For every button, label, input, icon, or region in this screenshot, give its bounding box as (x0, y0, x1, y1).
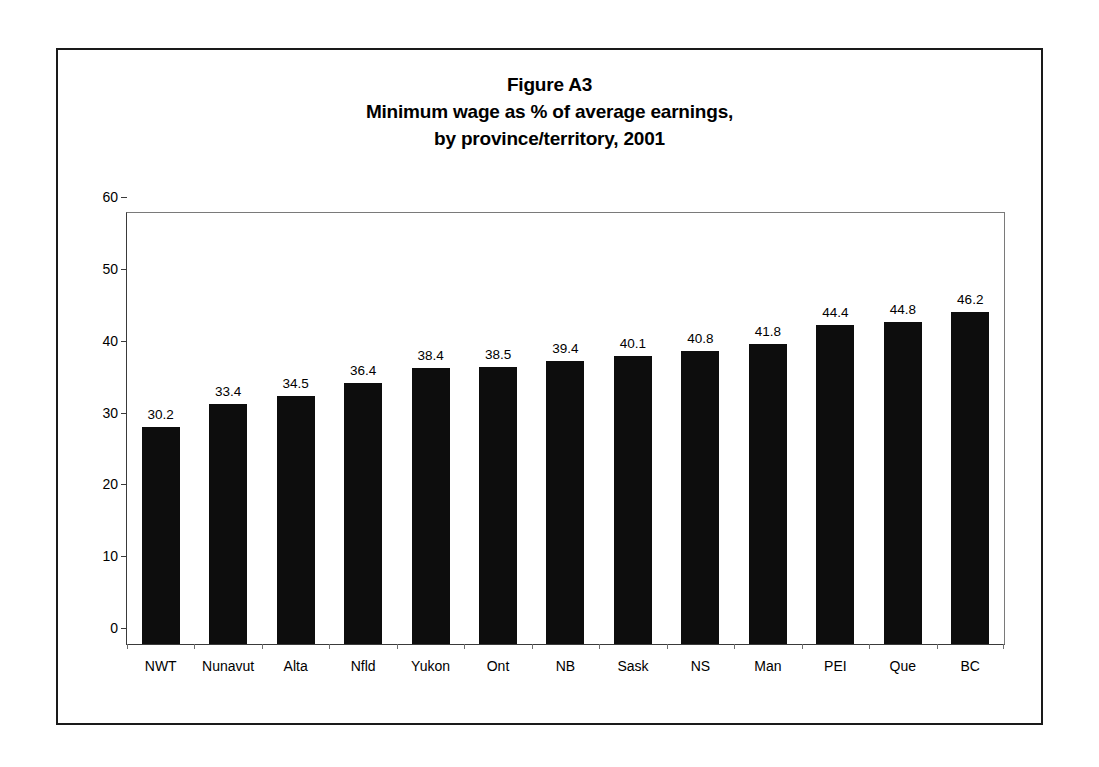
bar-group: 40.1Sask (599, 213, 666, 644)
x-axis-tick (667, 644, 668, 649)
bar-group: 33.4Nunavut (194, 213, 261, 644)
bar-value-label: 38.5 (485, 347, 511, 362)
bar-group: 41.8Man (734, 213, 801, 644)
bar-nb[interactable] (546, 361, 584, 644)
bar-value-label: 44.8 (890, 302, 916, 317)
bar-alta[interactable] (277, 396, 315, 644)
bar-value-label: 46.2 (957, 292, 983, 307)
bar-value-label: 44.4 (822, 305, 848, 320)
x-axis-category-label: BC (961, 658, 980, 674)
bar-value-label: 40.1 (620, 336, 646, 351)
bar-group: 34.5Alta (262, 213, 329, 644)
x-axis-category-label: Que (890, 658, 916, 674)
x-axis-category-label: Ont (487, 658, 510, 674)
bar-series: 30.2NWT33.4Nunavut34.5Alta36.4Nfld38.4Yu… (127, 213, 1004, 644)
x-axis-tick (127, 644, 128, 649)
x-axis-category-label: Nunavut (202, 658, 254, 674)
x-axis-category-label: Sask (617, 658, 648, 674)
y-axis-tick-label: 0 (110, 620, 127, 636)
bar-value-label: 41.8 (755, 324, 781, 339)
bar-group: 44.4PEI (802, 213, 869, 644)
figure-page-frame: Figure A3 Minimum wage as % of average e… (56, 48, 1043, 725)
bar-value-label: 34.5 (283, 376, 309, 391)
x-axis-category-label: Nfld (351, 658, 376, 674)
bar-group: 30.2NWT (127, 213, 194, 644)
x-axis-category-label: Man (754, 658, 781, 674)
x-axis-category-label: Alta (284, 658, 308, 674)
title-line-2: Minimum wage as % of average earnings, (58, 98, 1041, 125)
bar-nwt[interactable] (142, 427, 180, 644)
title-line-3: by province/territory, 2001 (58, 125, 1041, 152)
bar-sask[interactable] (614, 356, 652, 644)
bar-que[interactable] (884, 322, 922, 644)
x-axis-tick (802, 644, 803, 649)
x-axis-tick (194, 644, 195, 649)
bar-ont[interactable] (479, 367, 517, 644)
y-axis-tick-label: 60 (102, 189, 127, 205)
x-axis-tick (397, 644, 398, 649)
x-axis-tick (329, 644, 330, 649)
y-axis-tick-label: 20 (102, 476, 127, 492)
x-axis-tick (937, 644, 938, 649)
title-line-1: Figure A3 (58, 72, 1041, 98)
bar-nfld[interactable] (344, 383, 382, 644)
y-axis-tick-label: 40 (102, 333, 127, 349)
bar-value-label: 33.4 (215, 384, 241, 399)
x-axis-tick (869, 644, 870, 649)
x-axis-tick (464, 644, 465, 649)
bar-ns[interactable] (681, 351, 719, 644)
bar-pei[interactable] (816, 325, 854, 644)
bar-group: 38.5Ont (464, 213, 531, 644)
x-axis-tick (734, 644, 735, 649)
x-axis-category-label: NS (691, 658, 710, 674)
bar-value-label: 40.8 (687, 331, 713, 346)
page-title: Figure A3 Minimum wage as % of average e… (58, 72, 1041, 152)
bar-group: 40.8NS (667, 213, 734, 644)
x-axis-tick (599, 644, 600, 649)
y-axis-tick-label: 50 (102, 261, 127, 277)
bar-group: 36.4Nfld (329, 213, 396, 644)
bar-value-label: 39.4 (552, 341, 578, 356)
bar-group: 46.2BC (937, 213, 1004, 644)
bar-value-label: 38.4 (417, 348, 443, 363)
bar-man[interactable] (749, 344, 787, 644)
bar-group: 44.8Que (869, 213, 936, 644)
x-axis-category-label: PEI (824, 658, 847, 674)
bar-value-label: 30.2 (148, 407, 174, 422)
bar-nunavut[interactable] (209, 404, 247, 644)
x-axis-tick (532, 644, 533, 649)
x-axis-tick-end (1003, 644, 1004, 649)
x-axis-category-label: NB (556, 658, 575, 674)
chart-plot-area: 0102030405060 30.2NWT33.4Nunavut34.5Alta… (126, 212, 1005, 645)
y-axis-tick-label: 10 (102, 548, 127, 564)
bar-yukon[interactable] (412, 368, 450, 644)
x-axis-category-label: Yukon (411, 658, 450, 674)
y-axis-tick-label: 30 (102, 405, 127, 421)
x-axis-tick (262, 644, 263, 649)
bar-value-label: 36.4 (350, 363, 376, 378)
bar-bc[interactable] (951, 312, 989, 644)
x-axis-category-label: NWT (145, 658, 177, 674)
bar-group: 38.4Yukon (397, 213, 464, 644)
bar-group: 39.4NB (532, 213, 599, 644)
